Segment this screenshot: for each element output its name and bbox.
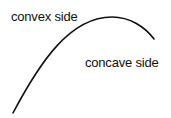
convexity-diagram: convex side concave side — [0, 0, 171, 118]
concave-side-label: concave side — [85, 56, 158, 69]
convex-side-label: convex side — [11, 10, 77, 23]
